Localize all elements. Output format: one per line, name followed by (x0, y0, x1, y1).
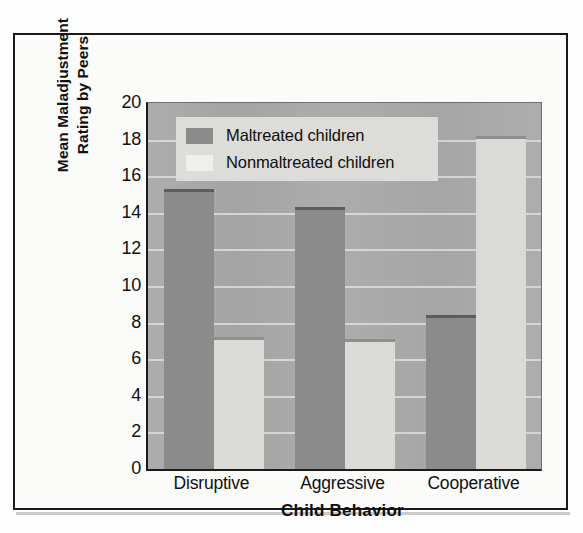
figure-frame: Mean Maladjustment Rating by Peers 20181… (13, 33, 568, 510)
x-axis-tick-labels: DisruptiveAggressiveCooperative (146, 473, 539, 499)
legend-label-nonmaltreated: Nonmaltreated children (226, 153, 394, 172)
y-tick-label: 20 (101, 92, 141, 113)
bar-disruptive-maltreated (164, 189, 214, 469)
legend-label-maltreated: Maltreated children (226, 126, 364, 145)
legend: Maltreated children Nonmaltreated childr… (176, 117, 438, 181)
bar-cooperative-maltreated (426, 315, 476, 469)
y-tick-label: 4 (101, 384, 141, 405)
bar-cooperative-nonmaltreated (476, 136, 526, 469)
x-tick-label: Aggressive (300, 473, 385, 494)
y-tick-label: 12 (101, 238, 141, 259)
bar-aggressive-maltreated (295, 207, 345, 469)
y-tick-label: 2 (101, 421, 141, 442)
plot-area: Maltreated children Nonmaltreated childr… (146, 102, 542, 471)
y-tick-label: 8 (101, 311, 141, 332)
y-tick-label: 0 (101, 458, 141, 479)
figure-root: Mean Maladjustment Rating by Peers 20181… (0, 0, 583, 533)
y-tick-label: 18 (101, 128, 141, 149)
legend-entry: Maltreated children (186, 122, 430, 149)
y-tick-label: 10 (101, 275, 141, 296)
legend-swatch-maltreated (186, 128, 213, 144)
y-tick-label: 14 (101, 201, 141, 222)
y-axis-tick-labels: 20181614121086420 (101, 102, 141, 468)
bar-aggressive-nonmaltreated (345, 339, 395, 469)
bar-disruptive-nonmaltreated (214, 337, 264, 469)
y-tick-label: 16 (101, 165, 141, 186)
legend-entry: Nonmaltreated children (186, 149, 430, 176)
x-tick-label: Disruptive (174, 473, 250, 494)
x-axis-title: Child Behavior (146, 501, 539, 521)
y-tick-label: 6 (101, 348, 141, 369)
x-tick-label: Cooperative (427, 473, 519, 494)
legend-swatch-nonmaltreated (186, 155, 213, 171)
